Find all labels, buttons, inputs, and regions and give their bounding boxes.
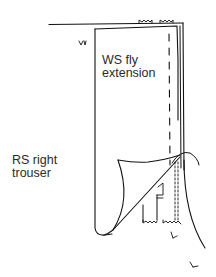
diagram-drawing	[0, 0, 216, 277]
trouser-right-edge-outer	[183, 23, 184, 170]
diagram-canvas: WS fly extension RS right trouser	[0, 0, 216, 277]
trouser-crotch-curve	[184, 160, 205, 248]
folded-flap-top	[118, 155, 180, 162]
label-ws-fly-extension-line2: extension	[102, 67, 156, 80]
waistline-edge	[49, 23, 183, 25]
inner-piece-tab	[157, 183, 163, 195]
label-rs-right-trouser: RS right trouser	[12, 154, 57, 180]
trouser-right-edge-inner	[180, 26, 181, 168]
zigzag-stitch-top-1	[139, 20, 152, 23]
grain-mark-2	[190, 262, 198, 267]
label-ws-fly-extension: WS fly extension	[102, 54, 156, 80]
zigzag-stitch-bottom-2	[163, 220, 181, 224]
notch-mark-v	[79, 41, 86, 45]
zigzag-stitch-bottom-1	[143, 220, 157, 223]
stitching-line-dashed	[169, 34, 170, 165]
label-rs-right-trouser-line2: trouser	[12, 167, 57, 180]
grain-mark-1	[171, 232, 177, 238]
thread-loop	[172, 152, 199, 165]
folded-flap-left	[104, 160, 124, 235]
folded-flap-diagonal	[113, 157, 180, 230]
